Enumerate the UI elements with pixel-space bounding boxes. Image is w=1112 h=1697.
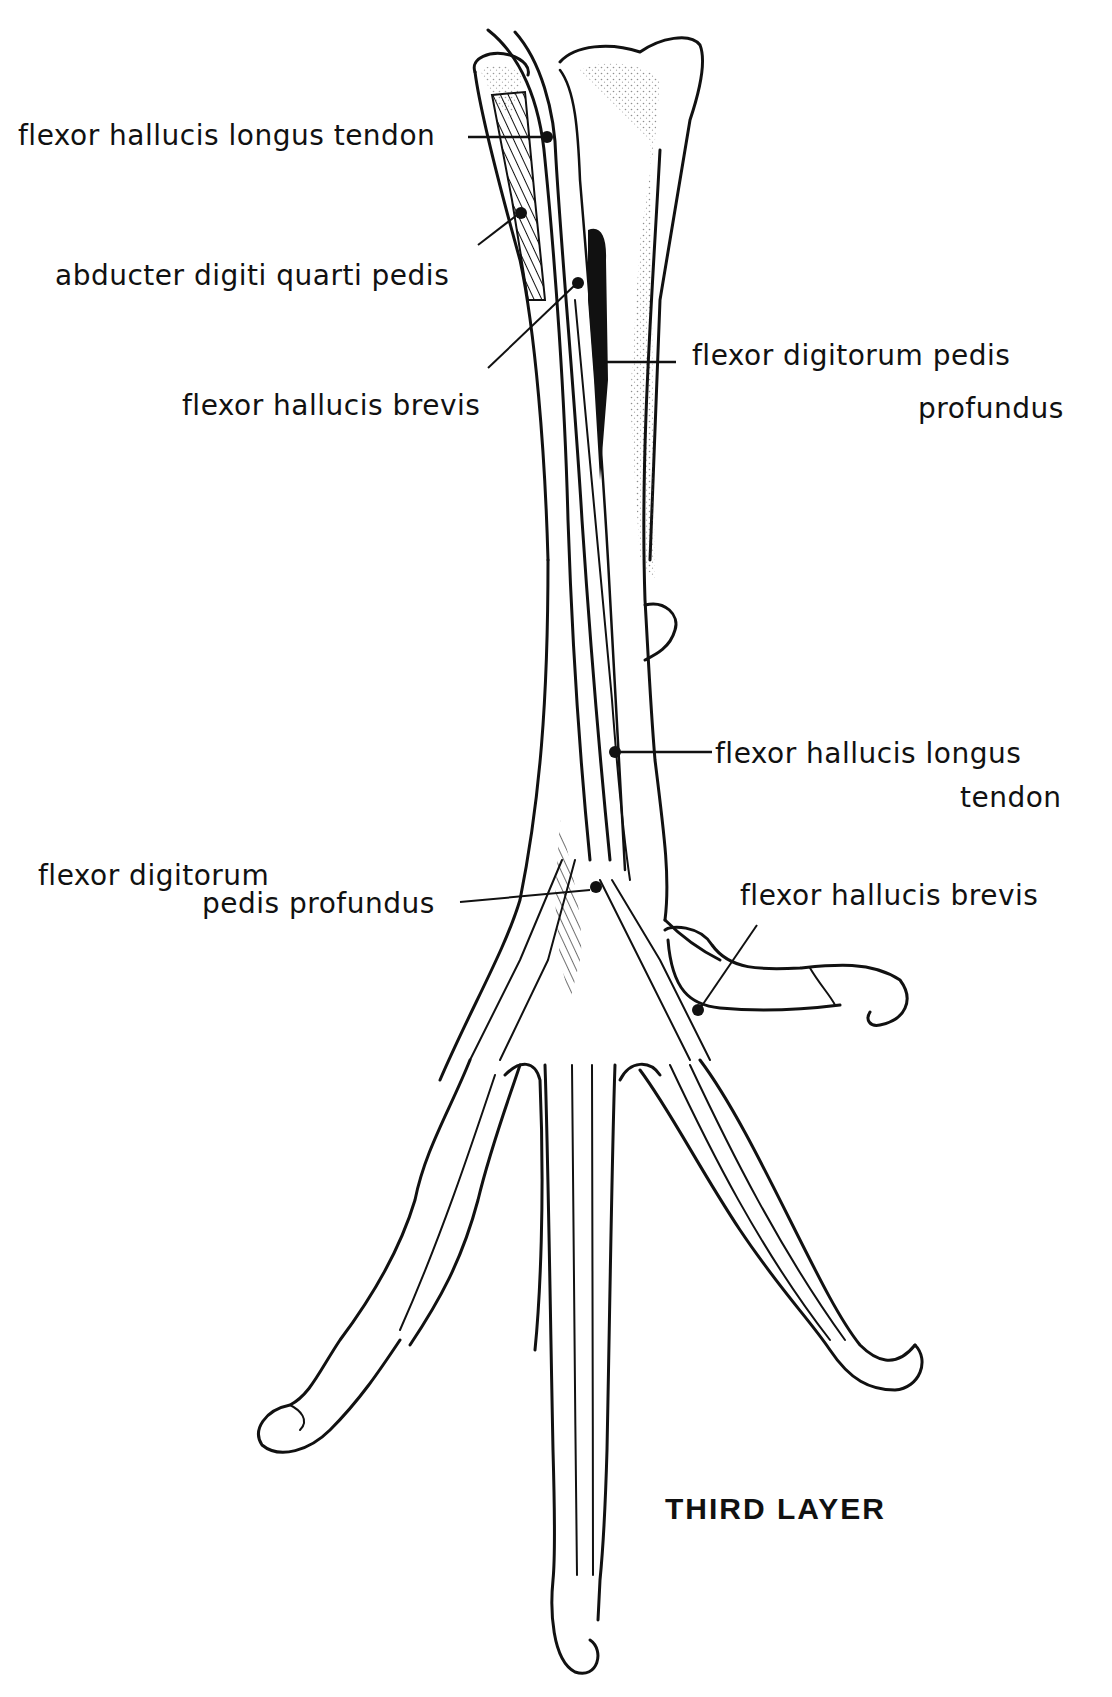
abducter-muscle xyxy=(492,92,545,300)
label-flexor-digitorum-pedis-profundus-top-1: flexor digitorum pedis xyxy=(692,342,1010,370)
label-flexor-hallucis-longus-tendon-top: flexor hallucis longus tendon xyxy=(18,122,435,150)
digit-middle xyxy=(545,1065,615,1673)
label-flexor-hallucis-longus-tendon-mid-1: flexor hallucis longus xyxy=(715,740,1021,768)
label-flexor-digitorum-pedis-profundus-top-2: profundus xyxy=(918,395,1064,423)
digit-right xyxy=(640,1060,922,1390)
label-flexor-hallucis-brevis-hallux: flexor hallucis brevis xyxy=(740,882,1038,910)
label-flexor-digitorum-pedis-profundus-mid-2: pedis profundus xyxy=(202,890,435,918)
label-flexor-hallucis-brevis-top: flexor hallucis brevis xyxy=(182,392,480,420)
label-flexor-hallucis-longus-tendon-mid-2: tendon xyxy=(960,784,1062,812)
figure-title: THIRD LAYER xyxy=(665,1492,886,1526)
fhb-dark-muscle xyxy=(588,229,608,480)
digit-left xyxy=(259,1060,520,1452)
label-abducter-digiti-quarti-pedis: abducter digiti quarti pedis xyxy=(55,262,449,290)
anatomical-drawing xyxy=(0,0,1112,1697)
label-flexor-digitorum-pedis-profundus-mid-1: flexor digitorum xyxy=(38,862,269,890)
web-left xyxy=(505,1064,542,1350)
lower-shaft xyxy=(440,560,720,1080)
